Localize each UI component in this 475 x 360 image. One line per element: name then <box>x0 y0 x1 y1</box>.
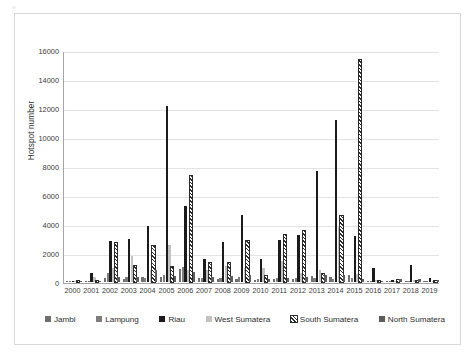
bar-group-2003 <box>123 52 141 282</box>
bar-group-2004 <box>141 52 159 282</box>
bar-group-2014 <box>329 52 347 282</box>
x-tick-label-2007: 2007 <box>195 286 214 295</box>
x-tick-label-2013: 2013 <box>307 286 326 295</box>
bar-group-2009 <box>235 52 253 282</box>
y-tick-label: 8000 <box>43 164 59 172</box>
bar-north-sumatera-2009 <box>249 275 251 282</box>
y-tick-label: 2000 <box>43 251 59 259</box>
bar-north-sumatera-2004 <box>155 270 157 282</box>
plot-area <box>63 52 439 284</box>
x-tick-label-2018: 2018 <box>401 286 420 295</box>
x-tick-label-2017: 2017 <box>383 286 402 295</box>
legend-label: North Sumatera <box>388 315 445 324</box>
bar-group-2016 <box>367 52 385 282</box>
legend-item-lampung[interactable]: Lampung <box>96 315 139 324</box>
legend-label: South Sumatera <box>300 315 359 324</box>
bar-north-sumatera-2016 <box>381 281 383 282</box>
legend-item-riau[interactable]: Riau <box>159 315 185 324</box>
bar-south-sumatera-2012 <box>303 231 305 282</box>
bar-south-sumatera-2006 <box>190 176 192 282</box>
bar-group-2015 <box>348 52 366 282</box>
y-tick-label: 10000 <box>38 135 59 143</box>
x-tick-label-2015: 2015 <box>345 286 364 295</box>
legend-label: Lampung <box>105 315 139 324</box>
bar-group-2008 <box>217 52 235 282</box>
bar-south-sumatera-2014 <box>340 216 342 282</box>
plot-wrapper: Hotspot number 0200040006000800010000120… <box>15 14 462 346</box>
scan-artifact <box>12 6 16 9</box>
bar-group-2012 <box>292 52 310 282</box>
bar-group-2018 <box>405 52 423 282</box>
bar-north-sumatera-2014 <box>343 275 345 282</box>
bar-group-2011 <box>273 52 291 282</box>
x-tick-label-2009: 2009 <box>232 286 251 295</box>
x-tick-label-2005: 2005 <box>157 286 176 295</box>
x-tick-label-2008: 2008 <box>213 286 232 295</box>
chart-figure: Hotspot number 0200040006000800010000120… <box>14 13 461 345</box>
legend-item-north-sumatera[interactable]: North Sumatera <box>379 315 445 324</box>
x-tick-label-2012: 2012 <box>289 286 308 295</box>
bar-groups <box>65 52 439 282</box>
x-tick-label-2001: 2001 <box>82 286 101 295</box>
y-tick-label: 4000 <box>43 222 59 230</box>
y-tick-label: 0 <box>55 280 59 288</box>
x-tick-label-2019: 2019 <box>420 286 439 295</box>
x-axis-tick-labels: 2000200120022003200420052006200720082009… <box>63 286 439 300</box>
x-tick-label-2016: 2016 <box>364 286 383 295</box>
south-sumatera-swatch <box>291 316 297 322</box>
bar-north-sumatera-2002 <box>117 277 119 283</box>
bar-group-2010 <box>254 52 272 282</box>
north-sumatera-swatch <box>379 316 385 322</box>
bar-north-sumatera-2011 <box>287 278 289 282</box>
west-sumatera-swatch <box>206 316 212 322</box>
y-axis-tick-labels: 0200040006000800010000120001400016000 <box>15 52 59 284</box>
y-tick-label: 6000 <box>43 193 59 201</box>
chart-legend: JambiLampungRiauWest SumateraSouth Sumat… <box>45 311 445 327</box>
legend-label: Jambi <box>54 315 76 324</box>
x-tick-label-2003: 2003 <box>119 286 138 295</box>
bar-north-sumatera-2005 <box>174 276 176 282</box>
y-tick-label: 12000 <box>38 106 59 114</box>
bar-group-2002 <box>104 52 122 282</box>
bar-north-sumatera-2003 <box>136 277 138 282</box>
bar-north-sumatera-2018 <box>418 279 420 282</box>
legend-item-south-sumatera[interactable]: South Sumatera <box>291 315 359 324</box>
bar-group-2000 <box>66 52 84 282</box>
bar-north-sumatera-2007 <box>211 277 213 283</box>
lampung-swatch <box>96 316 102 322</box>
bar-group-2019 <box>423 52 441 282</box>
bar-group-2007 <box>198 52 216 282</box>
bar-group-2013 <box>311 52 329 282</box>
x-tick-label-2002: 2002 <box>101 286 120 295</box>
bar-group-2017 <box>386 52 404 282</box>
bar-north-sumatera-2019 <box>437 280 439 282</box>
bar-group-2005 <box>160 52 178 282</box>
legend-label: West Sumatera <box>215 315 271 324</box>
bar-north-sumatera-2012 <box>305 277 307 282</box>
bar-group-2006 <box>179 52 197 282</box>
bar-north-sumatera-2010 <box>268 279 270 282</box>
bar-south-sumatera-2015 <box>359 60 361 282</box>
legend-label: Riau <box>168 315 185 324</box>
bar-south-sumatera-2011 <box>284 235 286 282</box>
x-tick-label-2014: 2014 <box>326 286 345 295</box>
y-tick-label: 16000 <box>38 48 59 56</box>
riau-swatch <box>159 316 165 322</box>
bar-north-sumatera-2001 <box>99 281 101 282</box>
bar-north-sumatera-2008 <box>230 276 232 282</box>
legend-item-jambi[interactable]: Jambi <box>45 315 76 324</box>
bar-north-sumatera-2006 <box>193 272 195 282</box>
y-tick-label: 14000 <box>38 77 59 85</box>
bar-north-sumatera-2000 <box>80 281 82 282</box>
bar-riau-2013 <box>316 171 318 282</box>
bar-north-sumatera-2017 <box>399 279 401 282</box>
x-tick-label-2006: 2006 <box>176 286 195 295</box>
bar-group-2001 <box>85 52 103 282</box>
x-tick-label-2011: 2011 <box>270 286 289 295</box>
x-tick-label-2004: 2004 <box>138 286 157 295</box>
x-tick-label-2010: 2010 <box>251 286 270 295</box>
x-tick-label-2000: 2000 <box>63 286 82 295</box>
bar-north-sumatera-2013 <box>324 275 326 282</box>
jambi-swatch <box>45 316 51 322</box>
legend-item-west-sumatera[interactable]: West Sumatera <box>206 315 271 324</box>
